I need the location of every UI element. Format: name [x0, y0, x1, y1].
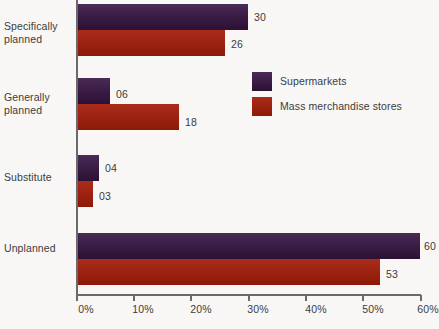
- bar-value-specifically-planned-supermarkets: 30: [254, 11, 266, 23]
- category-label-line1: Generally: [4, 91, 72, 104]
- category-label-unplanned: Unplanned: [4, 242, 72, 255]
- category-label-line1: Specifically: [4, 20, 72, 33]
- bar-substitute-mass: [76, 181, 93, 207]
- category-label-specifically-planned: Specifically planned: [4, 20, 72, 45]
- category-label-line1: Substitute: [4, 171, 72, 184]
- bar-value-substitute-supermarkets: 04: [105, 162, 117, 174]
- x-axis-tick-0: [76, 295, 78, 301]
- x-axis-tick-50: [362, 295, 364, 301]
- category-label-substitute: Substitute: [4, 171, 72, 184]
- bar-specifically-planned-mass: [76, 30, 225, 56]
- plot-area: 30 26 06 18 04 03 60 53: [76, 0, 420, 295]
- legend-item-mass-merchandise-stores: Mass merchandise stores: [252, 97, 432, 120]
- x-axis-tick-20: [190, 295, 192, 301]
- category-label-generally-planned: Generally planned: [4, 91, 72, 116]
- bar-substitute-supermarkets: [76, 155, 99, 181]
- x-axis-tick-40: [305, 295, 307, 301]
- category-label-line1: Unplanned: [4, 242, 72, 255]
- category-label-line2: planned: [4, 33, 72, 46]
- bar-value-generally-planned-mass: 18: [185, 116, 197, 128]
- bar-value-unplanned-supermarkets: 60: [424, 240, 436, 252]
- x-axis-tick-label-50: 50%: [362, 303, 384, 315]
- x-axis-tick-label-40: 40%: [305, 303, 327, 315]
- x-axis-tick-60: [420, 295, 422, 301]
- legend: Supermarkets Mass merchandise stores: [252, 72, 432, 122]
- bar-unplanned-mass: [76, 259, 380, 285]
- x-axis-tick-label-60: 60%: [417, 303, 439, 315]
- legend-swatch-supermarkets: [252, 72, 272, 91]
- x-axis-tick-label-10: 10%: [132, 303, 154, 315]
- bar-value-substitute-mass: 03: [99, 190, 111, 202]
- x-axis-tick-label-0: 0%: [78, 303, 94, 315]
- legend-label-supermarkets: Supermarkets: [280, 75, 347, 87]
- x-axis-tick-30: [248, 295, 250, 301]
- legend-swatch-mass-merchandise-stores: [252, 97, 272, 116]
- bar-unplanned-supermarkets: [76, 233, 420, 259]
- bar-value-unplanned-mass: 53: [386, 268, 398, 280]
- x-axis-tick-label-20: 20%: [190, 303, 212, 315]
- x-axis-tick-10: [133, 295, 135, 301]
- x-axis-tick-label-30: 30%: [247, 303, 269, 315]
- bar-value-specifically-planned-mass: 26: [231, 38, 243, 50]
- bar-value-generally-planned-supermarkets: 06: [116, 88, 128, 100]
- legend-item-supermarkets: Supermarkets: [252, 72, 432, 95]
- bar-generally-planned-mass: [76, 104, 179, 130]
- bar-specifically-planned-supermarkets: [76, 4, 248, 30]
- legend-label-mass-merchandise-stores: Mass merchandise stores: [280, 100, 402, 112]
- bar-generally-planned-supermarkets: [76, 78, 110, 104]
- y-axis-line: [76, 0, 78, 296]
- category-label-line2: planned: [4, 104, 72, 117]
